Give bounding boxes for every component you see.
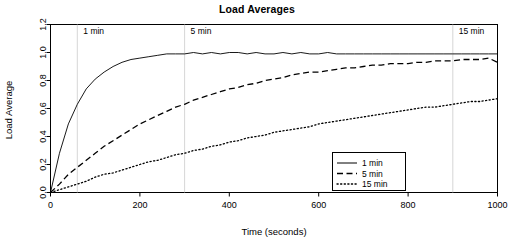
y-axis-tick-label: 0.2 [38,158,48,171]
annotation-labels: 1 min5 min15 min [83,26,484,36]
series-line-5-min [51,58,498,192]
x-axis-tick-label: 600 [311,200,326,210]
annotation-label: 5 min [191,26,212,36]
legend-label-5-min: 5 min [362,169,383,179]
y-axis-tick-label: 1.0 [38,46,48,59]
y-axis-tick-label: 0.8 [38,74,48,87]
x-axis: 02004006008001000 [48,193,508,210]
y-axis-tick-label: 0.4 [38,130,48,143]
chart-root: Load Averages 02004006008001000 0.00.20.… [0,0,514,249]
y-axis-tick-label: 0.0 [38,186,48,199]
series-line-1-min [51,53,498,193]
legend-label-15-min: 15 min [362,179,388,189]
x-axis-tick-label: 1000 [487,200,507,210]
x-axis-tick-label: 0 [48,200,53,210]
chart-legend[interactable]: 1 min5 min15 min [333,153,406,191]
legend-label-1-min: 1 min [362,158,383,168]
annotation-label: 1 min [83,26,104,36]
y-axis-title: Load Average [3,81,14,139]
y-axis: 0.00.20.40.60.81.01.2 [38,18,51,199]
series-line-15-min [51,99,498,193]
x-axis-tick-label: 800 [401,200,416,210]
data-series-group [51,53,498,193]
x-axis-tick-label: 200 [132,200,147,210]
y-axis-tick-label: 0.6 [38,102,48,115]
annotation-label: 15 min [459,26,485,36]
y-axis-tick-label: 1.2 [38,18,48,31]
x-axis-title: Time (seconds) [241,226,306,237]
plot-frame [51,25,498,193]
x-axis-tick-label: 400 [222,200,237,210]
chart-plot: 02004006008001000 0.00.20.40.60.81.01.2 … [0,0,514,249]
